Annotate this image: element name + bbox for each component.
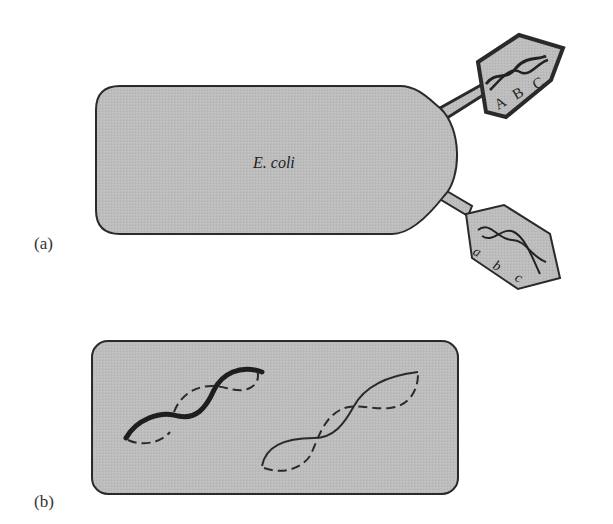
panel-b-label: (b) [34,492,54,511]
diagram-canvas: E. coli A B C a b c (a) [0,0,613,524]
panel-a-label: (a) [34,234,53,253]
ecoli-label: E. coli [252,154,295,171]
panel-b: (b) [34,341,458,511]
phage-upper: A B C [478,35,563,117]
panel-a: E. coli A B C a b c (a) [34,35,563,289]
phage-head-upper [478,35,563,117]
phage-lower: a b c [466,205,560,289]
